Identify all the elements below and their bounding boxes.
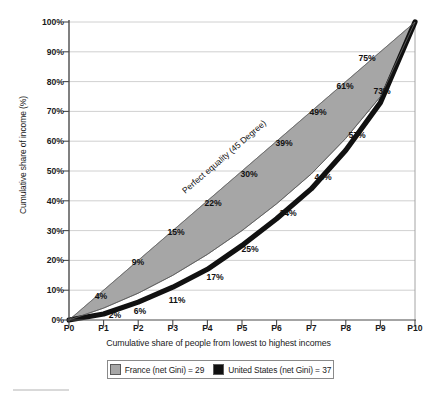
y-tick-80: 80% bbox=[30, 77, 64, 87]
gridlines bbox=[69, 22, 415, 290]
legend-label-united-states: United States (net Gini) = 37 bbox=[228, 365, 331, 375]
y-tick-100: 100% bbox=[30, 17, 64, 27]
y-tick-20: 20% bbox=[30, 255, 64, 265]
chart-legend: France (net Gini) = 29 United States (ne… bbox=[107, 360, 334, 379]
y-tick-30: 30% bbox=[30, 226, 64, 236]
x-axis-title: Cumulative share of people from lowest t… bbox=[0, 338, 437, 348]
legend-swatch-united-states-icon bbox=[213, 364, 224, 375]
legend-swatch-france-icon bbox=[110, 364, 121, 375]
y-axis-title: Cumulative share of income (%) bbox=[18, 55, 28, 255]
page-bottom-rule bbox=[13, 389, 69, 391]
y-tick-10: 10% bbox=[30, 285, 64, 295]
legend-item-united-states[interactable]: United States (net Gini) = 37 bbox=[213, 364, 331, 375]
y-tick-50: 50% bbox=[30, 166, 64, 176]
legend-item-france[interactable]: France (net Gini) = 29 bbox=[110, 364, 205, 375]
x-axis-tick-labels: P0 P1 P2 P3 P4 P5 P6 P7 P8 P9 P10 bbox=[0, 323, 437, 339]
y-tick-90: 90% bbox=[30, 47, 64, 57]
legend-label-france: France (net Gini) = 29 bbox=[125, 365, 205, 375]
y-tick-70: 70% bbox=[30, 106, 64, 116]
y-tick-40: 40% bbox=[30, 196, 64, 206]
y-tick-60: 60% bbox=[30, 136, 64, 146]
lorenz-curve-chart: 100% 90% 80% 70% 60% 50% 40% 30% 20% 10%… bbox=[0, 0, 437, 399]
x-tick-p10: P10 bbox=[395, 323, 435, 333]
